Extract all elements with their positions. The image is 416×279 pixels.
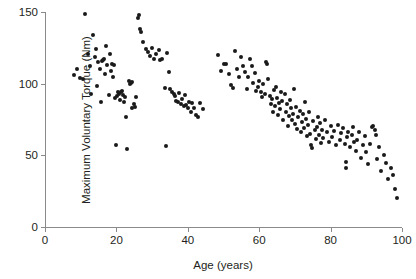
data-point xyxy=(165,51,169,55)
data-point xyxy=(363,134,367,138)
data-point xyxy=(75,67,79,71)
data-point xyxy=(192,106,196,110)
data-point xyxy=(351,125,355,129)
data-point xyxy=(250,64,254,68)
data-point xyxy=(91,33,95,37)
data-point xyxy=(157,48,161,52)
x-tick-mark xyxy=(116,228,117,232)
y-tick-label: 100 xyxy=(19,78,38,90)
x-tick-mark xyxy=(188,228,189,232)
data-point xyxy=(107,93,111,97)
x-tick-label: 60 xyxy=(253,234,266,246)
data-point xyxy=(288,98,292,102)
data-point xyxy=(366,162,370,166)
data-point xyxy=(325,130,329,134)
data-point xyxy=(98,67,102,71)
data-point xyxy=(289,106,293,110)
data-point xyxy=(130,80,134,84)
data-point xyxy=(379,169,383,173)
data-point xyxy=(111,75,115,79)
data-point xyxy=(374,133,378,137)
data-point xyxy=(233,49,237,53)
y-tick-label: 50 xyxy=(25,149,38,161)
x-tick-mark xyxy=(402,228,403,232)
y-tick-label: 150 xyxy=(19,6,38,18)
x-tick-label: 80 xyxy=(324,234,337,246)
data-point xyxy=(368,142,372,146)
data-point xyxy=(291,112,295,116)
data-point xyxy=(88,64,92,68)
data-point xyxy=(314,137,318,141)
data-point xyxy=(133,105,137,109)
data-point xyxy=(271,110,275,114)
data-point xyxy=(327,140,331,144)
data-point xyxy=(377,145,381,149)
data-point xyxy=(304,117,308,121)
data-point xyxy=(196,115,200,119)
data-point xyxy=(272,88,276,92)
data-point xyxy=(108,52,112,56)
data-point xyxy=(315,125,319,129)
data-point xyxy=(393,187,397,191)
data-point xyxy=(93,55,97,59)
data-point xyxy=(134,95,138,99)
data-point xyxy=(109,69,113,73)
y-axis-title: Maximum Voluntary Torque (Nm) xyxy=(80,36,92,204)
data-point xyxy=(248,57,252,61)
x-tick-mark xyxy=(331,228,332,232)
plot-area xyxy=(45,12,402,227)
x-tick-label: 20 xyxy=(110,234,123,246)
data-point xyxy=(173,94,177,98)
data-point xyxy=(294,105,298,109)
data-point xyxy=(373,128,377,132)
y-tick-label: 0 xyxy=(32,221,38,233)
data-point xyxy=(86,52,90,56)
data-point xyxy=(273,104,277,108)
data-point xyxy=(316,115,320,119)
data-point xyxy=(336,123,340,127)
data-point xyxy=(344,160,348,164)
data-point xyxy=(361,143,365,147)
data-point xyxy=(163,86,167,90)
data-point xyxy=(375,157,379,161)
data-point xyxy=(189,110,193,114)
x-tick-label: 100 xyxy=(392,234,411,246)
x-axis-title: Age (years) xyxy=(193,259,252,271)
data-point xyxy=(318,121,322,125)
x-tick-mark xyxy=(259,228,260,232)
data-point xyxy=(167,70,171,74)
x-tick-mark xyxy=(45,228,46,232)
data-point xyxy=(231,86,235,90)
data-point xyxy=(114,143,118,147)
x-tick-label: 40 xyxy=(181,234,194,246)
data-point xyxy=(274,85,278,89)
scatter-chart-figure: 020406080100050100150 Age (years) Maximu… xyxy=(0,0,416,279)
x-tick-label: 0 xyxy=(42,234,48,246)
data-point xyxy=(256,85,260,89)
x-axis-line xyxy=(45,227,402,228)
data-point xyxy=(150,46,154,50)
data-point xyxy=(386,177,390,181)
data-point xyxy=(72,73,76,77)
data-point xyxy=(263,92,267,96)
data-point xyxy=(384,161,388,165)
data-point xyxy=(253,71,257,75)
data-point xyxy=(164,144,168,148)
data-point xyxy=(313,128,317,132)
data-point xyxy=(302,126,306,130)
data-point xyxy=(245,87,249,91)
data-point xyxy=(320,128,324,132)
data-point xyxy=(343,142,347,146)
data-point xyxy=(329,124,333,128)
data-point xyxy=(112,63,116,67)
y-tick-mark xyxy=(41,227,45,228)
data-point xyxy=(95,84,99,88)
data-point xyxy=(137,13,141,17)
data-point xyxy=(338,138,342,142)
data-point xyxy=(354,149,358,153)
data-point xyxy=(103,72,107,76)
data-point xyxy=(286,124,290,128)
data-point xyxy=(344,166,348,170)
